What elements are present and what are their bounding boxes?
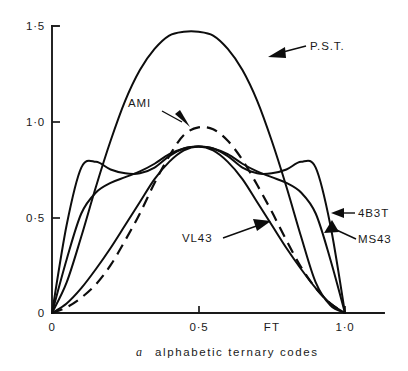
series-label-ami: AMI xyxy=(128,97,151,109)
curve-vl43 xyxy=(52,147,345,313)
annotation-ami: AMI xyxy=(128,97,190,127)
series-label-pst: P.S.T. xyxy=(310,40,345,52)
figure-container: 1·5 1·0 0·5 0 0 0·5 1·0 FT P.S.T. AMI VL… xyxy=(0,0,408,371)
curve-4b3t xyxy=(52,147,345,313)
annotation-pst: P.S.T. xyxy=(268,40,345,58)
curve-p-s-t xyxy=(52,31,345,313)
caption-text: alphabetic ternary codes xyxy=(155,346,319,358)
y-tick-label-0: 0 xyxy=(38,307,45,319)
curve-ami xyxy=(52,127,345,313)
annotation-vl43: VL43 xyxy=(182,219,271,244)
curves-group xyxy=(52,31,345,313)
tick-labels-group: 1·5 1·0 0·5 0 0 0·5 1·0 FT xyxy=(26,20,355,333)
curve-ms43 xyxy=(52,147,345,313)
caption-index: a xyxy=(136,345,142,359)
x-tick-label-0p5: 0·5 xyxy=(189,321,208,333)
x-axis-label: FT xyxy=(264,321,280,333)
vl43-arrow-icon xyxy=(253,219,271,231)
figure-caption: a alphabetic ternary codes xyxy=(136,345,319,359)
ami-arrow-icon xyxy=(175,110,190,127)
y-tick-label-0p5: 0·5 xyxy=(26,212,45,224)
b4b3t-arrow-icon xyxy=(331,208,344,218)
spectra-chart: 1·5 1·0 0·5 0 0 0·5 1·0 FT P.S.T. AMI VL… xyxy=(0,0,408,371)
pst-leader-line xyxy=(283,46,306,52)
x-tick-label-0: 0 xyxy=(48,321,55,333)
series-label-ms43: MS43 xyxy=(358,233,392,245)
y-tick-label-1p5: 1·5 xyxy=(26,20,45,32)
annotation-4b3t: 4B3T xyxy=(331,207,389,219)
series-label-4b3t: 4B3T xyxy=(358,207,389,219)
ms43-arrow-icon xyxy=(324,220,339,233)
x-tick-label-1p0: 1·0 xyxy=(335,321,354,333)
y-tick-label-1p0: 1·0 xyxy=(26,116,45,128)
series-label-vl43: VL43 xyxy=(182,232,212,244)
pst-arrow-icon xyxy=(268,47,286,58)
